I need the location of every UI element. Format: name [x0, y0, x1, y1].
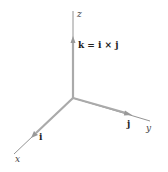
- y-axis-label: y: [145, 123, 152, 133]
- coordinate-diagram: z y x k = i × j j i: [0, 0, 168, 172]
- k-arrowhead-icon: [71, 36, 76, 43]
- k-vector-label: k = i × j: [78, 40, 119, 50]
- i-vector-label: i: [39, 132, 43, 142]
- z-axis-label: z: [76, 9, 82, 19]
- x-axis-label: x: [15, 154, 20, 164]
- i-vector: [36, 98, 73, 133]
- j-arrowhead-icon: [124, 111, 132, 116]
- j-vector: [73, 98, 126, 113]
- j-vector-label: j: [126, 119, 130, 129]
